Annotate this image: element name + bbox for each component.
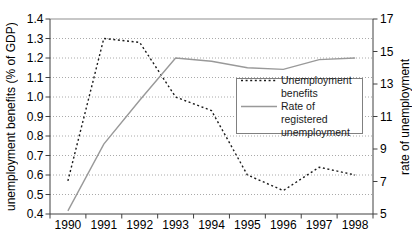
left-axis-tick-label: 1.0 xyxy=(27,90,44,104)
right-axis-tick-label: 5 xyxy=(380,207,387,221)
left-axis-title: unemployment benefits (% of GDP) xyxy=(4,19,18,215)
right-axis-tick-label: 11 xyxy=(380,110,393,124)
left-axis-tick-label: 0.6 xyxy=(27,168,44,182)
legend-label-line: unemployment xyxy=(281,126,360,139)
x-axis-tick-label: 1993 xyxy=(162,218,189,232)
left-axis-tick-label: 0.5 xyxy=(27,188,44,202)
legend-box: Unemployment benefits Rate of registered… xyxy=(236,78,363,134)
left-axis-tick-label: 0.7 xyxy=(27,149,44,163)
left-axis-tick-label: 0.8 xyxy=(27,129,44,143)
left-axis-tick-label: 1.1 xyxy=(27,71,44,85)
right-axis-tick-label: 7 xyxy=(380,175,387,189)
x-axis-tick-label: 1998 xyxy=(342,218,369,232)
x-axis-tick-label: 1992 xyxy=(126,218,153,232)
right-axis-title: rate of unemployment xyxy=(398,19,412,215)
chart-canvas: 1.41.31.21.11.00.90.80.70.60.50.41715131… xyxy=(0,0,417,251)
left-axis-tick-label: 1.4 xyxy=(27,12,44,26)
right-axis-tick-label: 13 xyxy=(380,77,394,91)
x-axis-tick-label: 1996 xyxy=(270,218,297,232)
dashed-line-key-icon xyxy=(237,74,281,87)
right-axis-tick-label: 17 xyxy=(380,12,394,26)
x-axis-tick-label: 1997 xyxy=(306,218,333,232)
x-axis-tick-label: 1994 xyxy=(198,218,225,232)
legend-label-line: Rate of registered xyxy=(281,100,360,126)
left-axis-tick-label: 0.4 xyxy=(27,207,44,221)
legend-label-rate: Rate of registered unemployment xyxy=(281,100,360,139)
legend-label-line: benefits xyxy=(281,87,352,100)
legend-item-rate: Rate of registered unemployment xyxy=(237,100,360,139)
legend-label-line: Unemployment xyxy=(281,74,352,87)
x-axis-tick-label: 1990 xyxy=(55,218,82,232)
left-axis-tick-label: 1.3 xyxy=(27,32,44,46)
right-axis-tick-label: 9 xyxy=(380,142,387,156)
legend-item-benefits: Unemployment benefits xyxy=(237,74,360,100)
x-axis-tick-label: 1991 xyxy=(90,218,117,232)
left-axis-tick-label: 0.9 xyxy=(27,110,44,124)
x-axis-tick-label: 1995 xyxy=(234,218,261,232)
left-axis-tick-label: 1.2 xyxy=(27,51,44,65)
right-axis-tick-label: 15 xyxy=(380,45,394,59)
solid-line-key-icon xyxy=(237,100,281,113)
legend-label-benefits: Unemployment benefits xyxy=(281,74,352,100)
